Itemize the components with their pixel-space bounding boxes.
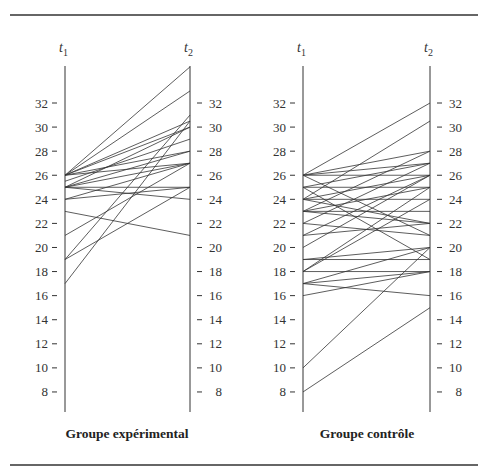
tick-label-t2: 20: [449, 240, 462, 255]
subject-line: [303, 151, 430, 175]
tick-label-t1: 14: [273, 312, 287, 327]
tick-label-t2: 18: [449, 264, 462, 279]
tick-label-t2: 14: [209, 312, 223, 327]
tick-label-t2: 16: [209, 288, 223, 303]
subject-line: [303, 272, 430, 296]
tick-label-t1: 28: [35, 144, 48, 159]
panel-control-group: t1t2881010121214141616181820202222242426…: [273, 40, 463, 412]
tick-label-t2: 16: [449, 288, 463, 303]
tick-label-t1: 20: [35, 240, 48, 255]
tick-label-t2: 12: [209, 336, 222, 351]
tick-label-t1: 16: [273, 288, 287, 303]
subject-line: [303, 272, 430, 284]
subject-line: [303, 163, 430, 223]
subject-line: [65, 163, 190, 199]
tick-label-t1: 14: [35, 312, 49, 327]
tick-label-t1: 18: [35, 264, 48, 279]
tick-label-t2: 28: [209, 144, 222, 159]
tick-label-t2: 26: [449, 168, 463, 183]
caption-control-group: Groupe contrôle: [320, 426, 415, 441]
tick-label-t2: 26: [209, 168, 223, 183]
subject-line: [303, 187, 430, 271]
tick-label-t1: 12: [35, 336, 48, 351]
subject-line: [303, 247, 430, 259]
subject-line: [303, 187, 430, 259]
subject-line: [65, 121, 190, 284]
caption-experimental-group: Groupe expérimental: [65, 426, 188, 441]
tick-label-t2: 14: [449, 312, 463, 327]
tick-label-t2: 30: [449, 120, 462, 135]
subject-line: [303, 103, 430, 175]
subject-line: [65, 151, 190, 187]
tick-label-t2: 8: [456, 384, 463, 399]
tick-label-t1: 26: [273, 168, 287, 183]
tick-label-t1: 20: [273, 240, 286, 255]
tick-label-t1: 28: [273, 144, 286, 159]
tick-label-t1: 30: [273, 120, 286, 135]
tick-label-t1: 10: [273, 360, 286, 375]
tick-label-t2: 8: [216, 384, 223, 399]
tick-label-t1: 10: [35, 360, 48, 375]
subject-line: [65, 163, 190, 235]
panel-experimental-group: t1t2881010121214141616181820202222242426…: [35, 40, 223, 412]
tick-label-t2: 24: [449, 192, 463, 207]
tick-label-t2: 24: [209, 192, 223, 207]
tick-label-t2: 10: [449, 360, 462, 375]
tick-label-t1: 22: [35, 216, 48, 231]
tick-label-t2: 22: [449, 216, 462, 231]
axis-title-t1: t1: [297, 40, 306, 58]
tick-label-t2: 10: [209, 360, 222, 375]
axis-title-t1: t1: [59, 40, 68, 58]
axis-title-t2: t2: [424, 40, 433, 58]
tick-label-t1: 32: [273, 96, 286, 111]
subject-line: [65, 187, 190, 259]
tick-label-t1: 24: [273, 192, 287, 207]
tick-label-t2: 22: [209, 216, 222, 231]
tick-label-t1: 22: [273, 216, 286, 231]
tick-label-t2: 12: [449, 336, 462, 351]
tick-label-t1: 24: [35, 192, 49, 207]
tick-label-t1: 26: [35, 168, 49, 183]
subject-line: [303, 199, 430, 271]
subject-line: [65, 67, 190, 175]
tick-label-t2: 32: [449, 96, 462, 111]
axis-title-t2: t2: [184, 40, 193, 58]
subject-line: [303, 163, 430, 175]
tick-label-t1: 32: [35, 96, 48, 111]
figure: t1t2881010121214141616181820202222242426…: [0, 0, 491, 467]
tick-label-t2: 20: [209, 240, 222, 255]
tick-label-t2: 32: [209, 96, 222, 111]
tick-label-t1: 18: [273, 264, 286, 279]
tick-label-t1: 30: [35, 120, 48, 135]
tick-label-t1: 12: [273, 336, 286, 351]
subject-line: [65, 151, 190, 175]
subject-line: [65, 127, 190, 175]
tick-label-t2: 28: [449, 144, 462, 159]
tick-label-t2: 18: [209, 264, 222, 279]
tick-label-t1: 8: [42, 384, 49, 399]
subject-line: [303, 284, 430, 296]
tick-label-t1: 16: [35, 288, 49, 303]
subject-line: [65, 91, 190, 175]
tick-label-t2: 30: [209, 120, 222, 135]
subject-line: [303, 211, 430, 223]
tick-label-t1: 8: [280, 384, 287, 399]
